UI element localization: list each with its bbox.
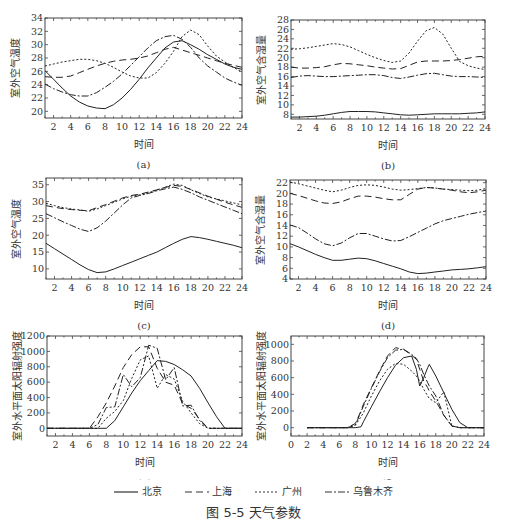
x-tick-label: 2: [296, 122, 302, 133]
y-tick-label: 10: [277, 99, 289, 110]
x-tick-label: 20: [446, 439, 458, 450]
plot-frame: [290, 180, 486, 279]
series-group: [307, 348, 484, 428]
y-tick-label: 10: [276, 241, 288, 252]
y-tick-label: 600: [271, 372, 289, 383]
x-tick-label: 10: [116, 121, 128, 132]
x-tick-label: 12: [378, 282, 390, 293]
x-tick-label: 2: [51, 282, 57, 293]
series-group: [291, 28, 485, 118]
legend-label: 广州: [282, 486, 302, 497]
y-axis-label: 室外水平面太阳辐射强度: [11, 331, 23, 441]
x-tick-label: 12: [134, 439, 146, 450]
x-tick-label: 24: [479, 122, 491, 133]
series-line: [291, 28, 485, 70]
x-tick-label: 10: [365, 439, 377, 450]
x-tick-label: 2: [304, 439, 310, 450]
y-tick-label: 14: [276, 220, 288, 231]
x-tick-label: 4: [313, 282, 319, 293]
x-tick-label: 20: [202, 121, 214, 132]
y-tick-label: 10: [32, 263, 44, 274]
y-tick-label: 20: [276, 188, 288, 199]
y-tick-label: 16: [277, 71, 289, 82]
y-axis: 02004006008001000: [265, 339, 484, 433]
x-tick-label: 24: [236, 121, 248, 132]
y-tick-label: 26: [277, 24, 289, 35]
chart-panel-a: 246810121416182022242022242628303234室外空气…: [9, 12, 248, 170]
series-line: [45, 30, 242, 78]
x-tick-label: 18: [185, 121, 197, 132]
x-axis: 24681012141618202224: [290, 180, 492, 293]
x-axis-label: 时间: [134, 138, 154, 150]
x-tick-label: 16: [167, 121, 179, 132]
series-line: [307, 356, 484, 428]
y-tick-label: 400: [27, 392, 45, 403]
y-tick-label: 1000: [265, 339, 289, 350]
panel-label: (c): [137, 320, 151, 331]
y-tick-label: 800: [271, 355, 289, 366]
y-tick-label: 200: [27, 407, 45, 418]
series-line: [46, 184, 242, 211]
x-tick-label: 2: [51, 121, 57, 132]
x-axis-label: 时间: [378, 299, 398, 311]
plot-frame: [291, 336, 484, 436]
x-tick-label: 8: [347, 122, 353, 133]
x-tick-label: 4: [313, 122, 319, 133]
series-line: [47, 356, 242, 428]
y-tick-label: 200: [271, 405, 289, 416]
y-tick-label: 25: [32, 213, 44, 224]
x-tick-label: 24: [478, 439, 490, 450]
figure-caption: 图 5-5 天气参数: [0, 502, 507, 521]
x-tick-label: 12: [134, 282, 146, 293]
y-tick-label: 0: [39, 423, 45, 434]
panel-label: (a): [137, 159, 151, 170]
x-tick-label: 18: [428, 122, 440, 133]
legend-item-shanghai: 上海: [185, 486, 235, 497]
y-tick-label: 35: [32, 179, 44, 190]
chart-panel-c: 24681012141618202224101520253035室外空气温度时间…: [10, 178, 248, 331]
legend-label: 北京: [142, 486, 162, 497]
legend-label: 上海: [212, 486, 232, 497]
y-tick-label: 400: [271, 389, 289, 400]
x-tick-label: 22: [462, 122, 474, 133]
x-tick-label: 4: [69, 439, 75, 450]
x-tick-label: 4: [320, 439, 326, 450]
series-line: [46, 185, 242, 210]
series-line: [290, 182, 486, 192]
x-tick-label: 6: [86, 439, 92, 450]
x-tick-label: 2: [52, 439, 58, 450]
y-tick-label: 22: [276, 177, 288, 188]
y-tick-label: 16: [276, 209, 288, 220]
y-tick-label: 32: [31, 26, 43, 37]
series-line: [45, 35, 242, 96]
x-tick-label: 16: [412, 282, 424, 293]
x-tick-label: 18: [185, 282, 197, 293]
series-line: [307, 349, 484, 427]
figure-canvas: 246810121416182022242022242628303234室外空气…: [0, 0, 507, 480]
panel-label: (e): [138, 477, 152, 480]
x-tick-label: 14: [151, 282, 163, 293]
x-tick-label: 8: [347, 282, 353, 293]
x-tick-label: 14: [395, 282, 407, 293]
dotted-line-icon: [255, 489, 279, 495]
series-group: [45, 30, 242, 109]
x-axis: 24681012141618202224: [46, 178, 248, 293]
x-tick-label: 12: [133, 121, 145, 132]
y-axis-label: 室外空气含湿量: [254, 195, 266, 265]
y-axis-label: 室外空气温度: [10, 199, 22, 259]
y-tick-label: 20: [31, 106, 43, 117]
y-tick-label: 15: [32, 246, 44, 257]
plot-frame: [45, 18, 242, 118]
x-tick-label: 24: [236, 282, 248, 293]
x-tick-label: 14: [150, 121, 162, 132]
x-tick-label: 16: [168, 282, 180, 293]
y-tick-label: 600: [27, 376, 45, 387]
plot-frame: [47, 336, 242, 436]
series-line: [291, 112, 485, 118]
x-tick-label: 6: [86, 282, 92, 293]
y-tick-label: 34: [31, 12, 43, 23]
x-axis: 024681012141618202224: [288, 336, 490, 450]
series-line: [290, 211, 486, 246]
x-tick-label: 22: [219, 121, 231, 132]
y-tick-label: 20: [32, 230, 44, 241]
